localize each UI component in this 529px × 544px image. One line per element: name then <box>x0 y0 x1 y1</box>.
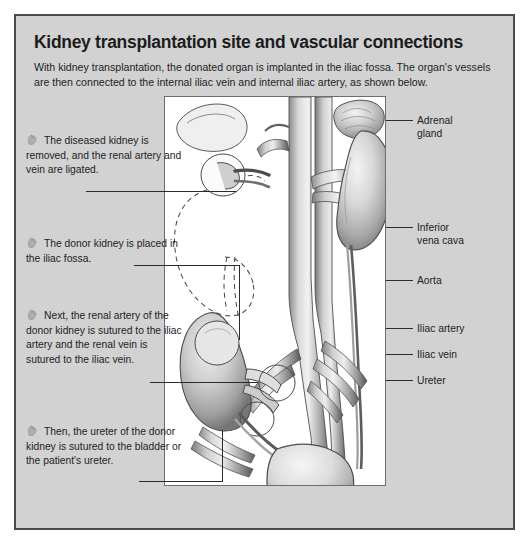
step-number-badge-1 <box>26 133 39 146</box>
step-number-badge-3 <box>26 308 39 321</box>
intro-paragraph: With kidney transplantation, the donated… <box>34 60 496 89</box>
page-title: Kidney transplantation site and vascular… <box>34 32 489 52</box>
upper-vessel-branch <box>257 139 289 157</box>
step-1: The diseased kidney is removed, and the … <box>26 133 182 178</box>
anatomy-illustration <box>164 96 386 486</box>
left-adrenal-remnant <box>177 104 247 151</box>
screenshot-root: Kidney transplantation site and vascular… <box>0 0 529 544</box>
step-3-text: Next, the renal artery of the donor kidn… <box>26 310 182 365</box>
label-adrenal-gland: Adrenal gland <box>417 114 453 140</box>
step-4: Then, the ureter of the donor kidney is … <box>26 424 182 469</box>
step-1-text: The diseased kidney is removed, and the … <box>26 135 181 175</box>
label-aorta: Aorta <box>417 274 442 287</box>
step-2-text: The donor kidney is placed in the iliac … <box>26 238 178 264</box>
label-inferior-vena-cava: Inferior vena cava <box>417 221 464 247</box>
removed-kidney-outline <box>174 175 265 319</box>
step-2: The donor kidney is placed in the iliac … <box>26 236 182 266</box>
step-3: Next, the renal artery of the donor kidn… <box>26 308 182 367</box>
label-ureter: Ureter <box>417 374 446 387</box>
step-number-badge-2 <box>26 236 39 249</box>
donor-kidney-detail-circle <box>195 321 239 365</box>
right-kidney <box>337 131 385 250</box>
ligated-renal-vessels <box>201 154 269 196</box>
label-iliac-artery: Iliac artery <box>417 322 465 335</box>
step-4-text: Then, the ureter of the donor kidney is … <box>26 426 181 466</box>
step-number-badge-4 <box>26 424 39 437</box>
label-iliac-vein: Iliac vein <box>417 348 457 361</box>
